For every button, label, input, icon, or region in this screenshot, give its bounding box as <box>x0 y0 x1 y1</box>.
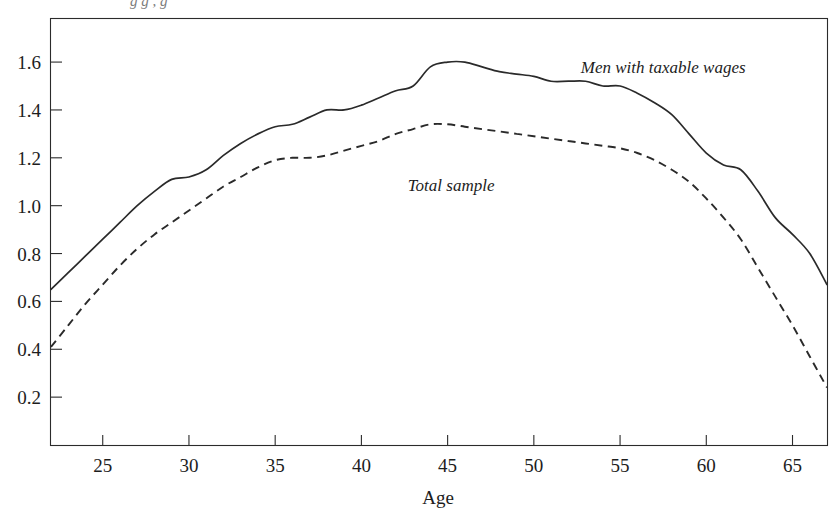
x-tick-label: 40 <box>352 455 371 476</box>
y-tick-label: 1.2 <box>17 148 41 169</box>
y-tick-label: 0.4 <box>17 339 41 360</box>
x-tick-label: 50 <box>524 455 543 476</box>
y-tick-label: 1.6 <box>17 52 41 73</box>
y-tick-label: 0.2 <box>17 387 41 408</box>
x-tick-label: 55 <box>611 455 630 476</box>
clipped-figure-title: g g , g <box>130 0 168 9</box>
annotation-total-sample: Total sample <box>408 176 495 195</box>
chart-figure: g g , g 0.20.40.60.81.01.21.41.6 2530354… <box>0 0 837 520</box>
y-tick-label: 0.8 <box>17 244 41 265</box>
line-chart: g g , g 0.20.40.60.81.01.21.41.6 2530354… <box>0 0 837 520</box>
x-tick-label: 25 <box>93 455 112 476</box>
y-tick-label: 1.0 <box>17 196 41 217</box>
x-tick-label: 35 <box>266 455 285 476</box>
x-axis-title: Age <box>422 487 454 508</box>
x-tick-label: 60 <box>697 455 716 476</box>
x-tick-label: 30 <box>179 455 198 476</box>
annotation-men-with-taxable-wages: Men with taxable wages <box>580 58 746 77</box>
x-tick-label: 45 <box>438 455 457 476</box>
y-tick-label: 1.4 <box>17 100 41 121</box>
y-tick-label: 0.6 <box>17 291 41 312</box>
x-tick-label: 65 <box>783 455 802 476</box>
